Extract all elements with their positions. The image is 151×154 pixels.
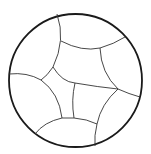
arc-edge-e3: [100, 37, 125, 48]
arc-edge-e6: [53, 67, 75, 83]
arc-edge-e15: [35, 118, 62, 134]
arc-edge-e9: [9, 74, 41, 80]
arc-edge-e7: [75, 83, 118, 89]
arc-edge-e13: [97, 89, 118, 124]
arc-edge-e4: [100, 48, 118, 89]
diagram-canvas: [0, 0, 151, 154]
hyperbolic-disk-diagram: [0, 0, 151, 154]
arc-edge-e11: [73, 83, 75, 118]
arc-edge-e2: [61, 41, 100, 49]
arc-edge-e8: [118, 89, 140, 97]
disk-boundary-circle: [9, 14, 142, 147]
arc-edge-e14: [74, 118, 97, 124]
arc-edge-e1: [53, 14, 61, 67]
arc-edge-e10: [41, 80, 62, 118]
arc-edge-e5: [41, 67, 53, 80]
